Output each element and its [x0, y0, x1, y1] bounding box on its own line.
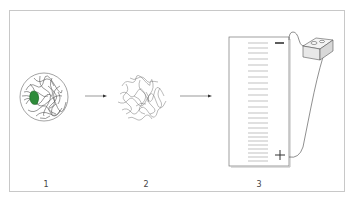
arrow-icon: [85, 95, 107, 98]
denatured-protein: [118, 75, 166, 120]
folded-protein: [20, 73, 68, 121]
diagram-art: [0, 0, 356, 202]
step-label-2: 2: [143, 180, 148, 189]
power-supply-icon: [303, 38, 333, 60]
highlight-region: [30, 91, 39, 105]
step-label-3: 3: [256, 180, 261, 189]
arrow-icon: [180, 95, 212, 98]
wire-negative: [289, 32, 307, 46]
gel: [229, 37, 290, 167]
step-label-1: 1: [43, 180, 48, 189]
wire-positive: [289, 43, 324, 157]
